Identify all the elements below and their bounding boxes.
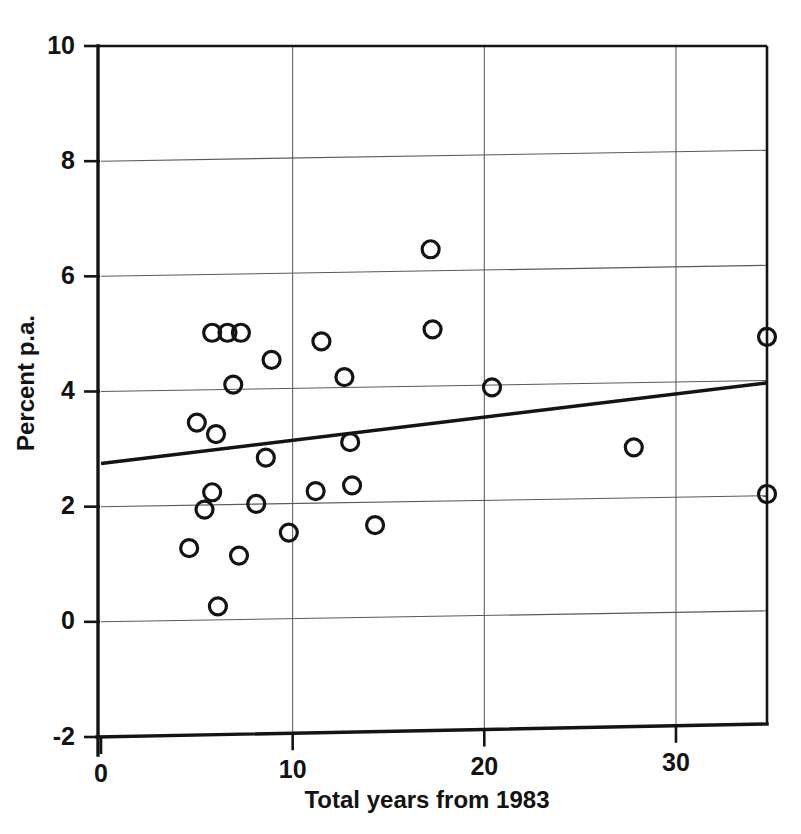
y-tick-label: 6 xyxy=(61,261,75,289)
data-point xyxy=(181,540,198,557)
y-tick-label: -2 xyxy=(53,722,75,750)
data-point xyxy=(196,501,213,518)
plot-svg: -20246810 0102030 Total years from 1983 … xyxy=(0,0,801,834)
data-point xyxy=(483,379,500,396)
x-gridlines xyxy=(293,46,676,749)
y-gridline xyxy=(101,381,767,392)
y-tick-label: 2 xyxy=(61,491,75,519)
data-points xyxy=(181,241,776,615)
data-point xyxy=(313,333,330,350)
data-point xyxy=(230,547,247,564)
y-gridlines xyxy=(101,150,767,622)
x-tick-labels: 0102030 xyxy=(94,748,690,787)
data-point xyxy=(625,439,642,456)
data-point xyxy=(342,434,359,451)
data-point xyxy=(344,477,361,494)
scatter-plot-figure: -20246810 0102030 Total years from 1983 … xyxy=(0,0,801,834)
trendline-path xyxy=(101,383,767,464)
x-axis-line xyxy=(97,724,767,737)
x-axis-title: Total years from 1983 xyxy=(304,786,549,813)
data-point xyxy=(263,351,280,368)
y-tick-label: 4 xyxy=(61,376,75,404)
x-tick-label: 10 xyxy=(279,755,307,783)
data-point xyxy=(424,321,441,338)
y-tick-label: 0 xyxy=(61,606,75,634)
data-point xyxy=(257,449,274,466)
data-point xyxy=(367,517,384,534)
x-tick-label: 0 xyxy=(94,759,108,787)
data-point xyxy=(225,376,242,393)
y-gridline xyxy=(101,150,767,161)
data-point xyxy=(307,483,324,500)
y-axis-title: Percent p.a. xyxy=(12,315,39,451)
data-point xyxy=(204,484,221,501)
data-point xyxy=(207,426,224,443)
y-gridline xyxy=(101,611,767,622)
x-tick-label: 20 xyxy=(470,752,498,780)
y-tick-label: 8 xyxy=(61,146,75,174)
data-point xyxy=(188,414,205,431)
data-point xyxy=(209,598,226,615)
data-point xyxy=(280,524,297,541)
trendline xyxy=(101,383,767,464)
data-point xyxy=(422,241,439,258)
y-tick-labels: -20246810 xyxy=(47,31,75,750)
y-tick-label: 10 xyxy=(47,31,75,59)
data-point xyxy=(336,369,353,386)
x-tick-label: 30 xyxy=(662,748,690,776)
y-gridline xyxy=(101,265,767,276)
